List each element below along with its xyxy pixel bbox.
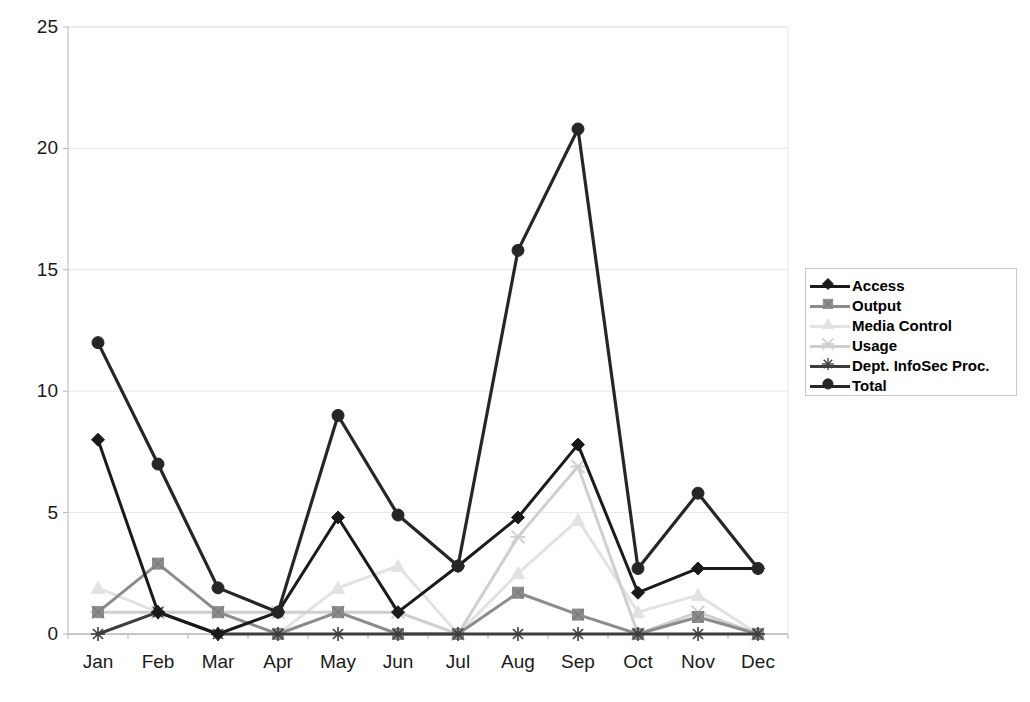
x-axis-tick-label: Jan: [68, 652, 128, 671]
legend-marker-icon: [810, 317, 850, 335]
y-axis-tick-label: 0: [10, 624, 58, 643]
legend-item[interactable]: Output: [806, 295, 1018, 316]
y-axis-tick-label: 15: [10, 260, 58, 279]
series-total: [92, 123, 764, 618]
legend-marker-icon: [810, 357, 850, 375]
legend-item-label: Media Control: [852, 318, 952, 334]
x-axis-tick-label: Feb: [128, 652, 188, 671]
x-axis-tick-label: May: [308, 652, 368, 671]
legend-marker-icon: [810, 377, 850, 395]
legend-marker-icon: [810, 337, 850, 355]
legend-item[interactable]: Total: [806, 375, 1018, 396]
x-axis-tick-label: Oct: [608, 652, 668, 671]
y-axis-tick-label: 5: [10, 503, 58, 522]
legend-item[interactable]: Dept. InfoSec Proc.: [806, 355, 1018, 376]
x-axis-tick-label: Apr: [248, 652, 308, 671]
legend-item[interactable]: Media Control: [806, 315, 1018, 336]
legend-item-label: Output: [852, 298, 901, 314]
series-line: [98, 466, 758, 634]
axis-lines: [63, 27, 788, 639]
x-axis-tick-label: Mar: [188, 652, 248, 671]
x-axis-tick-label: Aug: [488, 652, 548, 671]
legend-marker-icon: [810, 297, 850, 315]
y-axis-tick-label: 10: [10, 381, 58, 400]
legend-item-label: Usage: [852, 338, 897, 354]
series-line: [98, 520, 758, 634]
gridlines: [68, 27, 788, 634]
x-axis-tick-label: Jun: [368, 652, 428, 671]
legend-item[interactable]: Access: [806, 275, 1018, 296]
legend-item[interactable]: Usage: [806, 335, 1018, 356]
x-axis-tick-label: Dec: [728, 652, 788, 671]
line-chart: 0510152025 JanFebMarAprMayJunJulAugSepOc…: [0, 0, 1030, 702]
legend-item-label: Total: [852, 378, 887, 394]
y-axis-tick-label: 25: [10, 17, 58, 36]
x-axis-tick-label: Jul: [428, 652, 488, 671]
legend-marker-icon: [810, 277, 850, 295]
series-usage: [91, 460, 766, 641]
series-line: [98, 129, 758, 612]
legend-item-label: Dept. InfoSec Proc.: [852, 358, 990, 374]
chart-legend: AccessOutputMedia ControlUsageDept. Info…: [805, 268, 1017, 396]
y-axis-tick-label: 20: [10, 138, 58, 157]
legend-item-label: Access: [852, 278, 905, 294]
x-axis-tick-label: Sep: [548, 652, 608, 671]
x-axis-tick-label: Nov: [668, 652, 728, 671]
